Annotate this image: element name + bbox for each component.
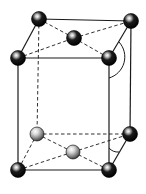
atom-bottom-face-center: [66, 145, 80, 159]
atom-top-back-left: [32, 12, 47, 27]
atom-top-front-right: [102, 51, 117, 66]
hidden-edge: [37, 19, 39, 134]
atom-bottom-back-right: [123, 127, 138, 142]
bottom-angle-arc: [109, 148, 119, 152]
atom-top-front-left: [11, 51, 26, 66]
atom-bottom-front-right: [102, 163, 117, 178]
cell-edge: [39, 19, 131, 21]
unit-cell-diagram: [0, 0, 146, 194]
hidden-edge: [18, 38, 74, 58]
cell-edge: [130, 21, 131, 134]
atom-top-back-right: [124, 14, 139, 29]
atom-bottom-back-left: [30, 127, 44, 141]
atom-top-face-center: [67, 31, 82, 46]
atom-bottom-front-left: [11, 163, 26, 178]
hidden-edge: [18, 152, 73, 170]
unit-cell-svg: [0, 0, 146, 194]
